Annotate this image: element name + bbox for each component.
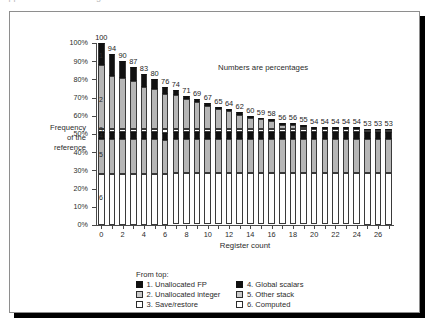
bar-segment [162,94,169,129]
x-tick [357,225,358,229]
y-tick-label: 0% [44,221,88,228]
bar-segment [194,173,201,224]
legend-title: From top: [136,271,303,279]
y-tick-label: 100% [44,39,88,46]
legend-swatch-white [136,301,143,308]
bar [300,125,307,225]
bar-segment [364,173,371,225]
bar [343,127,350,225]
figure-panel: Frequencyof thereference Numbers are per… [9,11,420,313]
bar-segment [322,173,329,224]
y-tick-label: 80% [44,76,88,83]
bar-segment [183,99,190,129]
bar [130,67,137,225]
bar-segment [109,76,116,129]
legend-swatch-black [236,281,243,288]
x-tick [272,225,273,229]
bar-value-label: 53 [374,120,404,127]
legend-item: 4. Global scalars [236,281,303,289]
bar-segment [141,87,148,129]
bar-segment [141,174,148,225]
bar-segment [109,139,116,174]
bar-segment [364,132,371,139]
x-tick [389,225,390,229]
bar-segment [332,132,339,139]
bar-segment [353,139,360,173]
bar-segment [151,174,158,225]
legend-swatch-gray [136,291,143,298]
x-tick [218,225,219,229]
y-tick-label: 70% [44,94,88,101]
x-tick [186,225,187,229]
bar [194,99,201,225]
bar-segment [268,173,275,224]
x-tick [229,225,230,229]
legend-item-label: 2. Unallocated integer [147,291,221,299]
bar-segment [258,119,265,128]
bar [204,103,211,225]
bar-segment [151,89,158,129]
bar-segment [268,121,275,128]
bar-segment [279,173,286,224]
bar [279,123,286,225]
bar-segment [311,139,318,173]
x-tick [123,225,124,229]
segment-marker-2: 2 [99,96,103,103]
bar-segment [236,173,243,224]
y-tick [92,134,96,135]
segment-marker-6: 6 [99,194,103,201]
bar [375,129,382,225]
x-tick [378,225,379,229]
bar-segment [375,173,382,225]
bar-segment [343,132,350,139]
bar-segment [247,139,254,173]
ghost-text: clipped text line above figure [0,0,114,2]
legend-item: 1. Unallocated FP [136,281,220,289]
x-axis-line [96,225,394,226]
clipped-text-above: clipped text line above figure [0,0,431,9]
bar-segment [162,174,169,225]
bar-value-label: 100 [86,34,116,41]
y-tick [92,207,96,208]
y-tick-label: 90% [44,58,88,65]
legend-item: 2. Unallocated integer [136,291,220,299]
legend-swatch-white [236,301,243,308]
bar-segment [215,139,222,173]
bar-segment [375,139,382,173]
x-tick [144,225,145,229]
x-tick [304,225,305,229]
bar-segment [236,115,243,129]
bar-segment [194,102,201,128]
x-tick [240,225,241,229]
bar-segment [385,132,392,139]
legend-item: 3. Save/restore [136,301,220,309]
bar-segment [258,139,265,173]
bar [290,123,297,225]
bar-segment [247,132,254,139]
y-tick [92,98,96,99]
bar-segment [343,173,350,224]
x-tick [335,225,336,229]
bar-segment [385,139,392,173]
bar-segment [130,174,137,225]
bar-segment [226,111,233,128]
bar-segment [236,132,243,139]
x-tick [155,225,156,229]
bar-segment [151,139,158,174]
x-tick [197,225,198,229]
y-tick-label: 40% [44,149,88,156]
bar [151,79,158,225]
y-tick [92,43,96,44]
bar-segment [194,132,201,139]
legend-column-1: 4. Global scalars5. Other stack6. Comput… [236,281,303,309]
bar-segment [311,132,318,139]
segment-marker-1: 1 [99,52,103,59]
bar-segment [173,132,180,139]
x-tick-label: 26 [366,231,390,238]
bar-segment [162,133,169,140]
bar-segment [226,132,233,139]
y-tick-label: 50% [44,130,88,137]
x-tick [176,225,177,229]
bar [109,54,116,225]
bar-segment [173,95,180,129]
